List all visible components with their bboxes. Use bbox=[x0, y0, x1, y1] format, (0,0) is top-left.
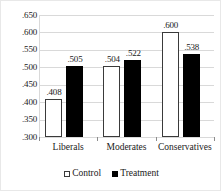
bar-value-label: .600 bbox=[154, 21, 188, 30]
gridline bbox=[39, 137, 214, 138]
plot-area: .408.505.504.522.600.538 bbox=[39, 15, 214, 138]
bar-value-label: .522 bbox=[116, 49, 150, 58]
black-square-icon bbox=[112, 171, 118, 177]
bar-value-label: .505 bbox=[58, 55, 92, 64]
y-axis-tick-label: .550 bbox=[3, 45, 37, 54]
y-axis-tick-label: .350 bbox=[3, 115, 37, 124]
bar-treatment-liberals bbox=[66, 66, 83, 137]
bar-group: .504.522 bbox=[97, 15, 155, 137]
y-axis-tick-label: .300 bbox=[3, 133, 37, 142]
legend-label: Control bbox=[72, 168, 101, 179]
bar-group: .600.538 bbox=[156, 15, 214, 137]
x-axis-label-liberals: Liberals bbox=[39, 141, 97, 153]
legend-label: Treatment bbox=[120, 168, 159, 179]
x-axis-label-conservatives: Conservatives bbox=[156, 141, 214, 153]
bar-value-label: .538 bbox=[175, 43, 209, 52]
white-square-icon bbox=[64, 171, 70, 177]
bar-chart: .300.350.400.450.500.550.600.650 .408.50… bbox=[0, 0, 221, 191]
y-axis-tick-label: .450 bbox=[3, 80, 37, 89]
legend-item-treatment[interactable]: Treatment bbox=[112, 168, 159, 179]
y-axis-tick-label: .600 bbox=[3, 28, 37, 37]
y-axis-tick-label: .400 bbox=[3, 98, 37, 107]
bar-treatment-conservatives bbox=[183, 54, 200, 137]
chart-legend: ControlTreatment bbox=[1, 168, 221, 179]
bar-control-moderates bbox=[103, 66, 120, 137]
legend-item-control[interactable]: Control bbox=[64, 168, 101, 179]
bar-group: .408.505 bbox=[39, 15, 97, 137]
y-axis-tick-label: .500 bbox=[3, 63, 37, 72]
x-axis-category-labels: LiberalsModeratesConservatives bbox=[39, 141, 214, 155]
bar-control-liberals bbox=[45, 99, 62, 137]
x-axis-label-moderates: Moderates bbox=[97, 141, 155, 153]
y-axis-tick-labels: .300.350.400.450.500.550.600.650 bbox=[1, 15, 37, 138]
x-axis-tick bbox=[214, 137, 215, 141]
bar-treatment-moderates bbox=[124, 60, 141, 137]
y-axis-tick-label: .650 bbox=[3, 11, 37, 20]
